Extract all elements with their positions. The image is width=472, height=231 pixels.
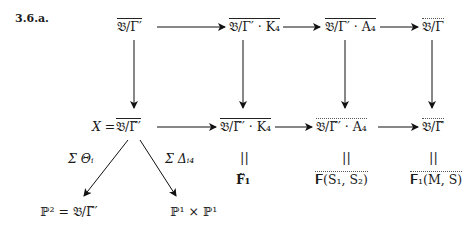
node-diag-right: ℙ¹ × ℙ¹ <box>170 205 217 219</box>
node-mid-3: 𝔅/Γ̃′ · A₄ <box>316 118 367 134</box>
node-top-3: 𝔅/Γ′ · A₄ <box>325 18 376 34</box>
node-bot-4: 𝐅₁(M, S) <box>410 171 462 187</box>
equals-1: || <box>240 150 249 165</box>
node-top-1: 𝔅/Γ′ <box>117 18 142 34</box>
node-mid-prefix: X = <box>92 120 115 134</box>
label-sum-delta: Σ Δᵢ₄ <box>165 151 194 166</box>
equals-2: || <box>342 150 351 165</box>
node-mid-1: 𝔅/Γ̃′ <box>116 118 141 134</box>
node-diag-left: ℙ² = 𝔅/Γ̃′ <box>40 205 98 219</box>
node-mid-4: 𝔅/Γ̃ <box>422 118 444 134</box>
node-mid-2: 𝔅/Γ̃′ · K₄ <box>220 118 271 134</box>
node-bot-2: 𝐅̃₁ <box>236 173 250 187</box>
label-sum-theta: Σ Θᵢ <box>68 151 94 166</box>
node-top-2: 𝔅/Γ′ · K₄ <box>229 18 280 34</box>
node-bot-3: 𝐅(S₁, S₂) <box>315 171 368 187</box>
equals-3: || <box>429 150 438 165</box>
node-top-4: 𝔅/Γ <box>422 18 444 34</box>
arrows-layer <box>0 0 472 231</box>
